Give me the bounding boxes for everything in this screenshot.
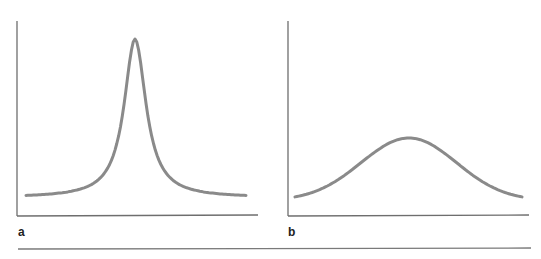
panel-a: a	[17, 21, 258, 239]
lorentzian-curve	[26, 39, 246, 195]
panel-b: b	[288, 21, 529, 239]
gaussian-curve	[295, 138, 522, 197]
figure: a b	[0, 0, 541, 259]
x-axis-a	[17, 215, 258, 216]
x-axis-b	[288, 215, 529, 216]
panel-label-a: a	[18, 225, 25, 239]
caption-divider	[18, 248, 531, 249]
panel-label-b: b	[288, 225, 295, 239]
